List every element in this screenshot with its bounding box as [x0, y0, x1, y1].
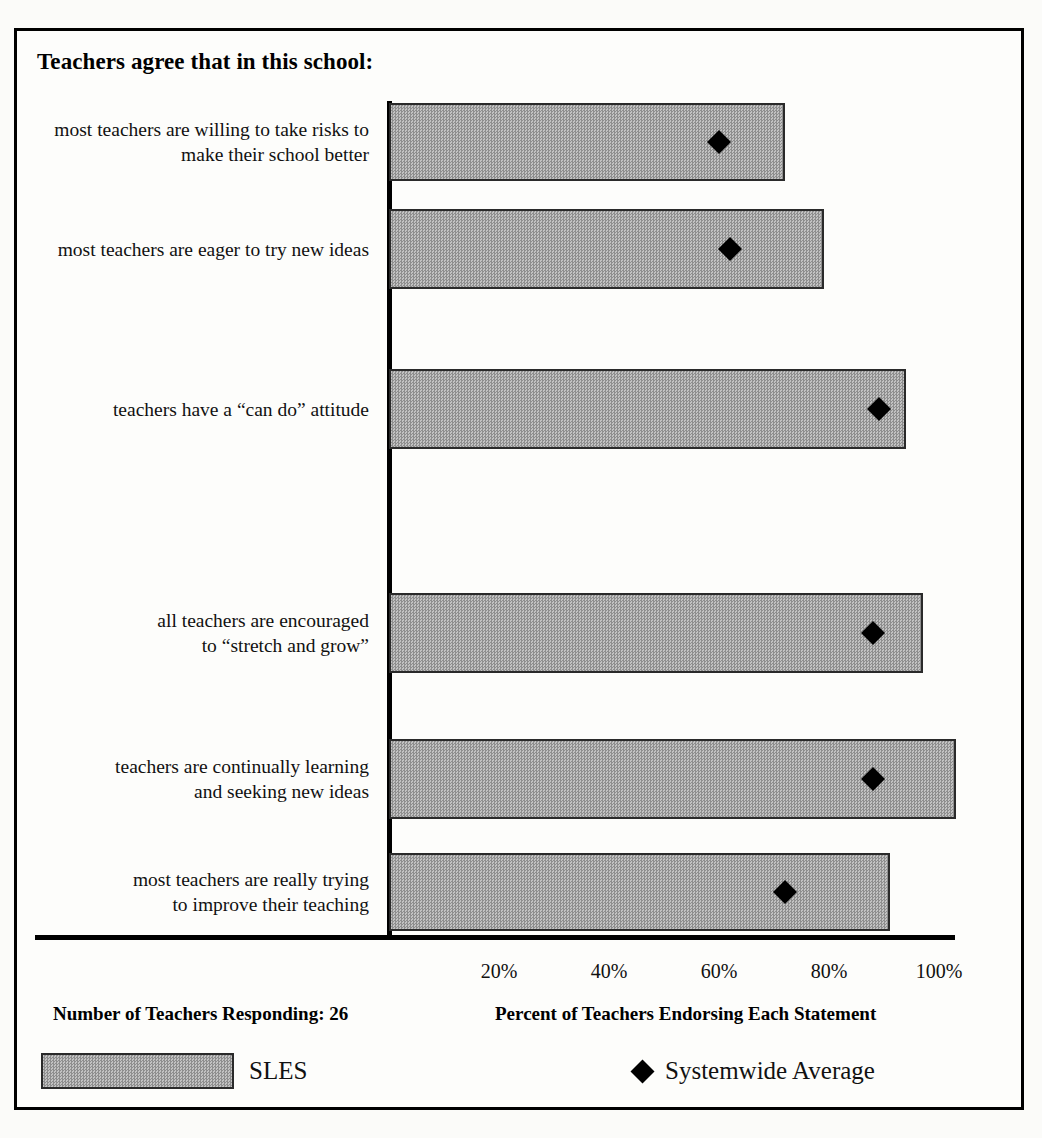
- x-tick-label-60: 60%: [701, 960, 738, 983]
- legend-marker-label: Systemwide Average: [665, 1053, 875, 1089]
- chart-page: Teachers agree that in this school: most…: [0, 0, 1042, 1138]
- category-label-line: teachers have a “can do” attitude: [39, 397, 369, 422]
- category-label-line: to improve their teaching: [39, 892, 369, 917]
- x-tick-label-20: 20%: [481, 960, 518, 983]
- category-label-line: and seeking new ideas: [39, 779, 369, 804]
- category-label-3: teachers have a “can do” attitude: [39, 397, 369, 422]
- x-tick-label-40: 40%: [591, 960, 628, 983]
- category-label-4: all teachers are encouragedto “stretch a…: [39, 608, 369, 658]
- bar-sles-2: [389, 209, 824, 289]
- category-label-2: most teachers are eager to try new ideas: [39, 237, 369, 262]
- x-axis-caption: Percent of Teachers Endorsing Each State…: [495, 1003, 876, 1025]
- category-label-line: most teachers are really trying: [39, 867, 369, 892]
- category-label-line: to “stretch and grow”: [39, 633, 369, 658]
- legend-bar-swatch: [41, 1053, 234, 1089]
- category-label-1: most teachers are willing to take risks …: [39, 117, 369, 167]
- category-label-line: all teachers are encouraged: [39, 608, 369, 633]
- category-label-line: most teachers are eager to try new ideas: [39, 237, 369, 262]
- x-tick-label-100: 100%: [916, 960, 963, 983]
- category-label-6: most teachers are really tryingto improv…: [39, 867, 369, 917]
- category-label-line: most teachers are willing to take risks …: [39, 117, 369, 142]
- chart-frame: Teachers agree that in this school: most…: [14, 28, 1024, 1110]
- sample-size-caption: Number of Teachers Responding: 26: [53, 1003, 348, 1025]
- category-label-line: make their school better: [39, 142, 369, 167]
- plot-area: most teachers are willing to take risks …: [17, 31, 1021, 1107]
- x-axis-line: [35, 935, 955, 940]
- x-tick-label-80: 80%: [811, 960, 848, 983]
- category-label-5: teachers are continually learningand see…: [39, 754, 369, 804]
- bar-sles-3: [389, 369, 906, 449]
- legend-bar-label: SLES: [249, 1053, 307, 1089]
- category-label-line: teachers are continually learning: [39, 754, 369, 779]
- bar-sles-6: [389, 853, 890, 931]
- bar-sles-4: [389, 593, 923, 673]
